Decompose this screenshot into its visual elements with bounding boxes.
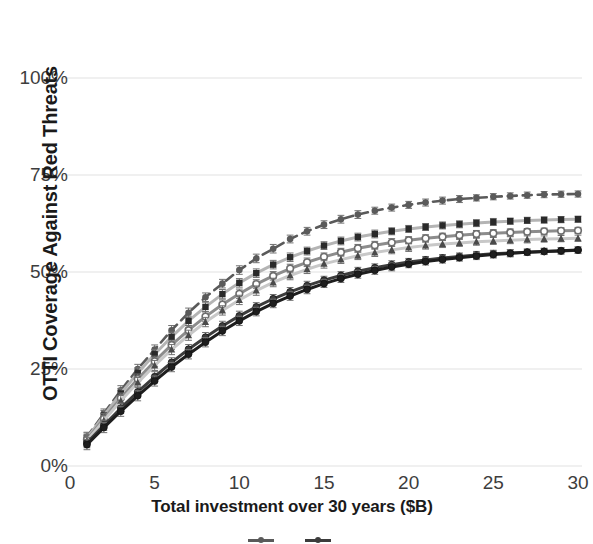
series-markers: [83, 234, 581, 443]
data-point: [219, 291, 225, 297]
x-tick-label: 30: [558, 473, 593, 492]
data-point: [202, 294, 209, 301]
data-point: [270, 261, 276, 267]
chart-series: [84, 191, 582, 442]
error-bars: [84, 191, 582, 442]
data-point: [405, 202, 412, 209]
data-point: [388, 264, 395, 271]
legend-item[interactable]: [305, 536, 336, 544]
error-bars: [84, 227, 582, 444]
data-point: [507, 193, 514, 200]
data-point: [185, 351, 192, 358]
data-point: [473, 220, 479, 226]
data-point: [354, 271, 361, 278]
data-point: [253, 308, 260, 315]
data-point: [338, 275, 345, 282]
data-point: [473, 253, 480, 260]
data-point: [304, 248, 310, 254]
data-point: [270, 245, 277, 252]
x-axis-title: Total investment over 30 years ($B): [0, 497, 584, 517]
data-point: [253, 270, 259, 276]
data-point: [117, 408, 124, 415]
data-point: [456, 232, 463, 239]
chart-series: [84, 247, 582, 448]
data-point: [270, 300, 277, 307]
data-point: [304, 286, 311, 293]
legend-marker-icon: [258, 537, 264, 543]
data-point: [236, 317, 243, 324]
data-point: [287, 236, 294, 243]
data-point: [507, 218, 513, 224]
x-tick-label: 5: [135, 473, 175, 492]
data-point: [422, 258, 429, 265]
data-point: [84, 441, 91, 448]
gridlines: [62, 78, 582, 466]
data-point: [236, 280, 242, 286]
chart-series: [84, 227, 582, 444]
data-point: [575, 227, 582, 234]
x-tick-label: 0: [50, 473, 90, 492]
legend-swatch: [248, 539, 274, 542]
data-point: [405, 226, 411, 232]
data-point: [185, 309, 192, 316]
legend-swatch: [305, 539, 331, 542]
data-point: [389, 228, 395, 234]
data-point: [219, 280, 226, 287]
data-point: [338, 216, 345, 223]
chart-series: [83, 234, 581, 446]
data-point: [439, 222, 445, 228]
data-point: [168, 334, 174, 340]
data-point: [405, 261, 412, 268]
data-point: [541, 248, 548, 255]
series-line: [87, 238, 578, 441]
series-markers: [84, 227, 582, 443]
error-bars: [84, 216, 582, 443]
data-point: [100, 424, 107, 431]
data-point: [168, 364, 175, 371]
data-point: [575, 216, 581, 222]
data-point: [388, 204, 395, 211]
data-point: [422, 224, 428, 230]
data-point: [558, 216, 564, 222]
data-point: [490, 230, 497, 237]
data-point: [558, 191, 565, 198]
x-tick-label: 15: [304, 473, 344, 492]
data-point: [372, 242, 379, 249]
data-point: [202, 339, 209, 346]
data-point: [219, 328, 226, 335]
data-point: [372, 231, 378, 237]
data-point: [439, 197, 446, 204]
x-tick-label: 25: [473, 473, 513, 492]
data-point: [372, 207, 379, 214]
data-point: [422, 235, 429, 242]
y-axis-title: OTTI Coverage Against Red Threats: [39, 24, 62, 444]
data-point: [287, 254, 293, 260]
data-point: [490, 251, 497, 258]
data-point: [355, 234, 361, 240]
data-point: [524, 249, 531, 256]
data-point: [338, 238, 344, 244]
data-point: [524, 192, 531, 199]
data-point: [541, 217, 547, 223]
data-point: [439, 233, 446, 240]
data-point: [338, 249, 345, 256]
series-line: [87, 194, 578, 437]
data-point: [575, 191, 582, 198]
data-point: [185, 318, 191, 324]
data-point: [473, 195, 480, 202]
data-point: [151, 378, 158, 385]
data-point: [355, 211, 362, 218]
x-tick-label: 10: [219, 473, 259, 492]
data-point: [524, 217, 530, 223]
data-point: [422, 199, 429, 206]
series-markers: [84, 216, 581, 441]
data-point: [321, 280, 328, 287]
data-point: [558, 247, 565, 254]
data-point: [456, 254, 463, 261]
data-point: [304, 228, 311, 235]
legend-item[interactable]: [248, 536, 279, 544]
data-point: [507, 250, 514, 257]
data-point: [490, 219, 496, 225]
data-point: [321, 221, 328, 228]
